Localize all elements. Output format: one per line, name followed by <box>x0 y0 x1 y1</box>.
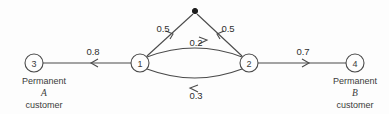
caption-a-line2: A <box>40 88 47 98</box>
edge-source-to-node1 <box>147 14 193 56</box>
caption-b-line1: Permanent <box>333 76 378 86</box>
node-1-label: 1 <box>137 59 142 69</box>
caption-a-line3: customer <box>25 100 62 110</box>
node-2-label: 2 <box>246 59 251 69</box>
source-dot-icon <box>192 8 197 13</box>
edge-label-node2-to-node1: 0.3 <box>189 90 202 101</box>
diagram-canvas: 3 1 2 4 0.5 0.5 0.8 0.2 0.3 0.7 Permanen… <box>0 0 389 114</box>
caption-b-line2: B <box>352 88 358 98</box>
caption-b-line3: customer <box>336 100 373 110</box>
edge-node2-to-node4 <box>258 59 346 67</box>
edge-node2-to-node1 <box>147 69 242 92</box>
node-4[interactable]: 4 <box>346 54 364 72</box>
caption-a-line1: Permanent <box>22 76 67 86</box>
node-3[interactable]: 3 <box>25 54 43 72</box>
edge-label-node2-to-node4: 0.7 <box>296 46 309 57</box>
node-1[interactable]: 1 <box>131 54 149 72</box>
node-3-label: 3 <box>31 59 36 69</box>
caption-permanent-customer-a: Permanent A customer <box>22 76 67 110</box>
edge-label-source-to-node2: 0.5 <box>221 23 234 34</box>
edge-label-source-to-node1: 0.5 <box>156 23 169 34</box>
edge-label-node1-to-node2: 0.2 <box>189 37 202 48</box>
caption-permanent-customer-b: Permanent B customer <box>333 76 378 110</box>
node-2[interactable]: 2 <box>240 54 258 72</box>
edge-node1-to-node3 <box>43 59 131 67</box>
edge-label-node1-to-node3: 0.8 <box>86 46 99 57</box>
node-4-label: 4 <box>352 59 357 69</box>
edge-source-to-node2 <box>197 14 242 56</box>
network-diagram: 3 1 2 4 0.5 0.5 0.8 0.2 0.3 0.7 Permanen… <box>0 0 389 114</box>
